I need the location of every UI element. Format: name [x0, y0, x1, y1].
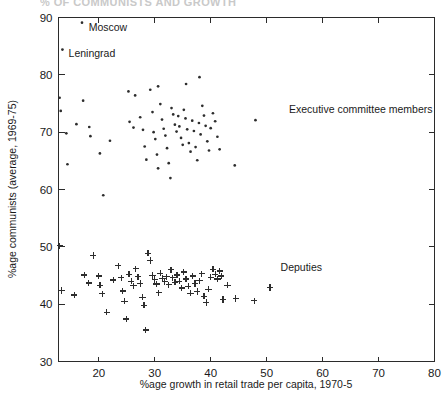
data-point-dot: [128, 121, 131, 124]
data-point-dot: [162, 127, 165, 130]
data-point-dot: [157, 85, 160, 88]
data-point-dot: [166, 147, 169, 150]
data-point-dot: [151, 111, 154, 114]
x-axis-tick-labels: 20304050607080: [92, 367, 441, 379]
y-tick-label: 40: [40, 298, 53, 310]
x-tick-label: 30: [148, 367, 161, 379]
x-tick-label: 40: [204, 367, 217, 379]
data-point-dot: [164, 134, 167, 137]
data-point-dot: [191, 119, 194, 122]
data-point-dot: [193, 130, 196, 133]
data-point-dot: [75, 123, 78, 126]
data-point-dot: [186, 128, 189, 131]
data-point-dot: [201, 104, 204, 107]
data-point-dot: [182, 108, 185, 111]
data-point-dot: [88, 126, 91, 129]
y-tick-label: 90: [40, 12, 53, 24]
x-axis-ticks: [99, 18, 435, 362]
data-point-dot: [157, 167, 160, 170]
plot-annotation-2: Leningrad: [69, 47, 116, 59]
data-point-dot: [99, 152, 102, 155]
data-point-dot: [172, 113, 175, 116]
clipped-figure-title: % OF COMMUNISTS AND GROWTH: [40, 0, 370, 9]
x-tick-label: 20: [92, 367, 105, 379]
series-deputies: [57, 243, 274, 333]
plot-annotation-3: Executive committee members: [289, 103, 433, 115]
x-tick-label: 80: [428, 367, 441, 379]
y-axis-tick-labels: 30405060708090: [40, 12, 53, 368]
axes-frame: [59, 18, 435, 362]
data-point-dot: [139, 116, 142, 119]
data-point-dot: [142, 129, 145, 132]
data-point-dot: [204, 125, 207, 128]
data-point-dot: [156, 153, 159, 156]
data-point-dot: [212, 112, 215, 115]
data-point-dot: [233, 164, 236, 167]
data-point-dot: [159, 103, 162, 106]
data-point-dot: [161, 118, 164, 121]
data-point-dot: [134, 94, 137, 97]
y-tick-label: 60: [40, 184, 53, 196]
data-point-dot: [143, 145, 146, 148]
plot-annotation-4: Deputies: [281, 261, 322, 273]
data-point-dot: [167, 162, 170, 165]
y-tick-label: 70: [40, 126, 53, 138]
data-point-dot: [198, 76, 201, 79]
data-point-dot: [189, 150, 192, 153]
x-tick-label: 50: [260, 367, 273, 379]
plot-annotations: MoscowLeningradExecutive committee membe…: [69, 21, 433, 273]
y-tick-label: 30: [40, 356, 53, 368]
data-point-dot: [132, 126, 135, 129]
data-point-dot: [65, 132, 68, 135]
data-point-dot: [102, 194, 105, 197]
data-point-dot: [208, 149, 211, 152]
data-point-dot: [170, 107, 173, 110]
data-point-dot: [218, 148, 221, 151]
data-point-dot: [199, 133, 202, 136]
data-point-dot: [184, 117, 187, 120]
data-point-dot: [66, 163, 69, 166]
data-point-dot: [82, 99, 85, 102]
plot-annotation-1: Moscow: [89, 21, 128, 33]
data-point-dot: [188, 142, 191, 145]
data-point-dot: [59, 110, 62, 113]
data-point-dot: [61, 48, 64, 51]
plot-canvas: 20304050607080 30405060708090 MoscowLeni…: [0, 0, 447, 405]
data-point-dot: [214, 120, 217, 123]
data-point-dot: [145, 158, 148, 161]
y-axis-title: %age communists (average, 1969-75): [6, 100, 18, 278]
data-point-dot: [181, 143, 184, 146]
data-point-dot: [254, 119, 257, 122]
data-point-dot: [185, 83, 188, 86]
data-point-dot: [152, 131, 155, 134]
data-point-dot: [81, 21, 84, 24]
data-point-dot: [58, 96, 61, 99]
data-point-dot: [178, 125, 181, 128]
x-axis-title: %age growth in retail trade per capita, …: [140, 378, 353, 390]
data-point-dot: [180, 137, 183, 140]
x-tick-label: 70: [372, 367, 385, 379]
data-point-dot: [206, 140, 209, 143]
data-point-dot: [216, 135, 219, 138]
data-point-dot: [175, 130, 178, 133]
data-point-dot: [177, 115, 180, 118]
data-point-dot: [127, 90, 130, 93]
data-point-dot: [198, 122, 201, 125]
scatter-plot-figure: % OF COMMUNISTS AND GROWTH 2030405060708…: [0, 0, 447, 405]
data-point-dot: [89, 135, 92, 138]
data-point-dot: [154, 138, 157, 141]
y-tick-label: 80: [40, 69, 53, 81]
data-point-dot: [149, 88, 152, 91]
data-point-dot: [196, 159, 199, 162]
y-tick-label: 50: [40, 241, 53, 253]
data-point-dot: [174, 123, 177, 126]
data-point-dot: [109, 139, 112, 142]
x-tick-label: 60: [316, 367, 329, 379]
data-point-dot: [169, 177, 172, 180]
data-point-dot: [209, 127, 212, 130]
data-point-dot: [194, 146, 197, 149]
data-point-dot: [203, 114, 206, 117]
